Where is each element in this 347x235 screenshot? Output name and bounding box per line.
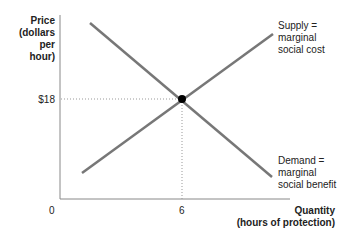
x-label-line: Quantity xyxy=(200,205,335,217)
supply-label-line: Supply = xyxy=(278,20,325,32)
origin-tick: 0 xyxy=(49,205,55,217)
supply-label-line: social cost xyxy=(278,44,325,56)
demand-label: Demand = marginal social benefit xyxy=(278,155,336,191)
y-label-line: per xyxy=(0,39,55,51)
y-label-line: Price xyxy=(0,15,55,27)
demand-label-line: Demand = xyxy=(278,155,336,167)
demand-label-line: social benefit xyxy=(278,179,336,191)
equilibrium-point xyxy=(178,95,186,103)
x-axis-label: Quantity (hours of protection) xyxy=(200,205,335,229)
supply-label: Supply = marginal social cost xyxy=(278,20,325,56)
y-label-line: (dollars xyxy=(0,27,55,39)
x-label-line: (hours of protection) xyxy=(200,217,335,229)
demand-label-line: marginal xyxy=(278,167,336,179)
price-tick: $18 xyxy=(20,94,55,106)
supply-label-line: marginal xyxy=(278,32,325,44)
y-label-line: hour) xyxy=(0,51,55,63)
y-axis-label: Price (dollars per hour) xyxy=(0,15,55,63)
quantity-tick: 6 xyxy=(179,205,185,217)
